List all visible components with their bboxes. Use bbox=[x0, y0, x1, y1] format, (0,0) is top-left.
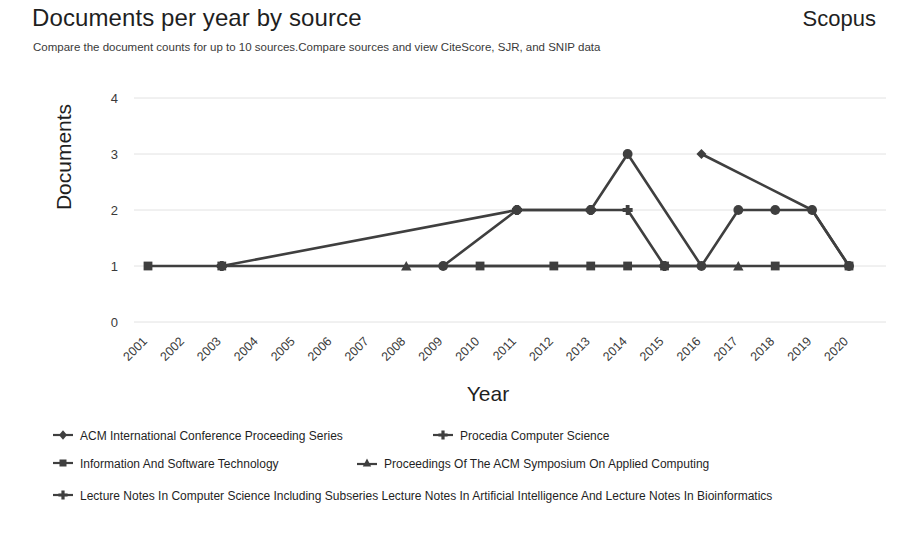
line-chart-svg: 0123420012002200320042005200620072008200… bbox=[0, 0, 906, 420]
x-axis-tick-label: 2011 bbox=[490, 334, 519, 363]
legend-label: Proceedings Of The ACM Symposium On Appl… bbox=[384, 456, 709, 472]
legend-item-information-and-software-technology[interactable]: Information And Software Technology bbox=[52, 456, 279, 472]
x-axis-tick-label: 2017 bbox=[711, 334, 741, 364]
x-axis-tick-label: 2019 bbox=[785, 334, 815, 364]
x-axis-tick-label: 2012 bbox=[526, 334, 556, 364]
x-axis-tick-label: 2008 bbox=[379, 334, 409, 364]
x-axis-tick-label: 2006 bbox=[305, 334, 335, 364]
diamond-marker-icon bbox=[52, 429, 74, 441]
x-axis-tick-label: 2004 bbox=[231, 334, 261, 364]
legend-label: Procedia Computer Science bbox=[460, 428, 609, 444]
legend-label: Lecture Notes In Computer Science Includ… bbox=[80, 488, 800, 504]
y-axis-tick-label: 2 bbox=[111, 203, 118, 218]
data-point-circle bbox=[438, 261, 448, 271]
plus-marker-icon bbox=[432, 429, 454, 441]
legend-item-acm-international-conference-proceeding-series[interactable]: ACM International Conference Proceeding … bbox=[52, 428, 343, 444]
series-line bbox=[222, 210, 665, 266]
chart-legend: ACM International Conference Proceeding … bbox=[0, 424, 906, 528]
data-point-square bbox=[217, 262, 226, 271]
x-axis-tick-label: 2001 bbox=[121, 334, 151, 364]
x-axis-tick-label: 2015 bbox=[637, 334, 667, 364]
x-axis-tick-labels: 2001200220032004200520062007200820092010… bbox=[121, 334, 852, 364]
data-point-circle bbox=[844, 261, 854, 271]
legend-row-3: Lecture Notes In Computer Science Includ… bbox=[0, 488, 906, 528]
x-axis-tick-label: 2010 bbox=[453, 334, 483, 364]
data-point-circle bbox=[697, 261, 707, 271]
y-axis-title: Documents bbox=[52, 87, 76, 227]
triangle-marker-icon bbox=[356, 457, 378, 469]
x-axis-tick-label: 2018 bbox=[748, 334, 778, 364]
legend-label: ACM International Conference Proceeding … bbox=[80, 428, 343, 444]
legend-item-procedia-computer-science[interactable]: Procedia Computer Science bbox=[432, 428, 609, 444]
legend-row-1: ACM International Conference Proceeding … bbox=[0, 424, 906, 456]
data-point-circle bbox=[512, 205, 522, 215]
x-axis-tick-label: 2003 bbox=[194, 334, 224, 364]
square-marker-icon bbox=[52, 457, 74, 469]
x-axis-tick-label: 2020 bbox=[822, 334, 852, 364]
data-point-circle bbox=[807, 205, 817, 215]
data-point-circle bbox=[733, 205, 743, 215]
data-point-diamond bbox=[696, 149, 706, 159]
y-axis-tick-label: 3 bbox=[111, 147, 118, 162]
x-axis-title-text: Year bbox=[467, 382, 509, 405]
legend-item-lecture-notes-in-computer-science[interactable]: Lecture Notes In Computer Science Includ… bbox=[52, 488, 800, 504]
series-4 bbox=[401, 261, 743, 270]
x-axis-tick-label: 2009 bbox=[416, 334, 446, 364]
x-axis-tick-label: 2005 bbox=[268, 334, 298, 364]
x-axis-tick-label: 2002 bbox=[157, 334, 187, 364]
x-axis-tick-label: 2007 bbox=[342, 334, 372, 364]
x-axis-tick-label: 2016 bbox=[674, 334, 704, 364]
cross-marker-icon bbox=[52, 489, 74, 501]
x-axis-tick-label: 2014 bbox=[600, 334, 630, 364]
x-axis-title: Year bbox=[0, 382, 906, 406]
y-axis-tick-label: 4 bbox=[111, 91, 118, 106]
y-axis-tick-label: 1 bbox=[111, 259, 118, 274]
data-point-circle bbox=[586, 205, 596, 215]
data-point-square bbox=[771, 262, 780, 271]
legend-row-2: Information And Software Technology Proc… bbox=[0, 456, 906, 488]
legend-label: Information And Software Technology bbox=[80, 456, 279, 472]
y-axis-tick-label: 0 bbox=[111, 315, 118, 330]
legend-item-proceedings-of-the-acm-symposium-on-applied-computing[interactable]: Proceedings Of The ACM Symposium On Appl… bbox=[356, 456, 709, 472]
data-point-circle bbox=[623, 149, 633, 159]
data-point-circle bbox=[770, 205, 780, 215]
x-axis-tick-label: 2013 bbox=[563, 334, 593, 364]
chart-page: Documents per year by source Scopus Comp… bbox=[0, 0, 906, 542]
data-point-square bbox=[144, 262, 153, 271]
